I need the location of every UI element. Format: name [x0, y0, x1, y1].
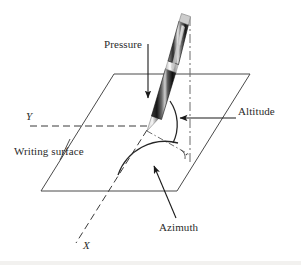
azimuth-label: Azimuth	[159, 221, 198, 233]
stylus-pen	[147, 14, 191, 132]
altitude-label: Altitude	[238, 105, 275, 117]
azimuth-angle-arc	[118, 141, 178, 175]
x-axis-label: X	[83, 239, 90, 251]
pressure-label: Pressure	[104, 38, 142, 50]
x-axis-line	[76, 130, 147, 243]
writing-surface-label: Writing surface	[14, 145, 84, 157]
y-axis-label: Y	[26, 110, 32, 122]
diagram-canvas	[0, 0, 301, 265]
bottom-edge-band	[0, 261, 301, 265]
altitude-angle-arc	[170, 101, 177, 143]
azimuth-leader-line	[154, 166, 176, 218]
pen-orientation-diagram: Pressure Altitude Writing surface Azimut…	[0, 0, 301, 265]
